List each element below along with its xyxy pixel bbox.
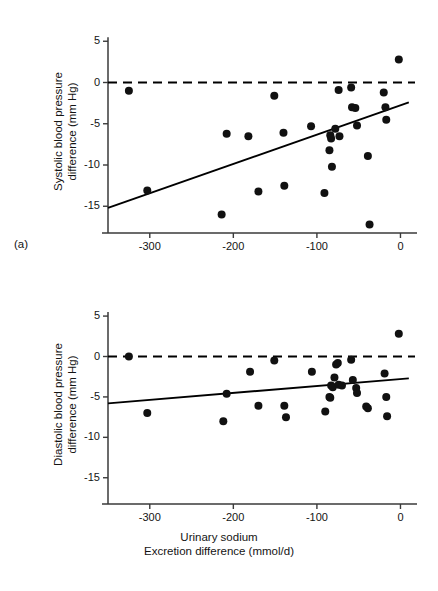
y-axis-tick-label: -5 [66,391,100,402]
data-point [380,88,388,96]
data-point [347,83,355,91]
data-point [331,125,339,133]
data-point [366,220,374,228]
data-point [347,356,355,364]
data-point [125,353,133,361]
y-axis-tick-label: -10 [66,431,100,442]
x-axis-label-line2: Excretion difference (mmol/d) [0,544,438,558]
data-point [335,86,343,94]
data-point [125,87,133,95]
data-point [320,189,328,197]
data-point [381,369,389,377]
data-point [143,409,151,417]
data-point [254,187,262,195]
data-point [143,187,151,195]
data-point [223,130,231,138]
y-axis-tick-label: -5 [66,118,100,129]
scatter-svg-b [108,308,413,502]
data-point [364,152,372,160]
data-point [307,122,315,130]
data-point [325,146,333,154]
x-axis-tick-label: 0 [377,241,423,252]
data-point [381,103,389,111]
x-axis-tick-label: -100 [294,241,340,252]
data-point [395,330,403,338]
data-point [382,393,390,401]
data-point [353,121,361,129]
data-point [279,129,287,137]
x-axis-tick-label: -200 [210,512,256,523]
data-point [334,359,342,367]
data-point [282,413,290,421]
x-axis-tick-label: -300 [127,512,173,523]
data-point [351,104,359,112]
data-point [382,116,390,124]
y-axis-tick-label: 5 [66,310,100,321]
data-point [327,135,335,143]
x-axis-tick-label: -300 [127,241,173,252]
data-point [335,132,343,140]
data-point [364,404,372,412]
scatter-svg-a [108,33,413,231]
y-axis-label-line1: Diastolic blood pressure [52,343,64,466]
data-point [349,376,357,384]
data-point [280,402,288,410]
data-point [270,92,278,100]
y-axis-tick-label: 0 [66,351,100,362]
regression-line [108,378,409,403]
data-point [326,394,334,402]
data-point [383,412,391,420]
plot-area-b [108,308,413,502]
data-point [338,382,346,390]
panel-tag-a: (a) [14,238,28,250]
panel-a-systolic: Systolic blood pressure difference (mm H… [0,0,438,295]
data-point [330,374,338,382]
y-axis-tick-label: 0 [66,77,100,88]
data-point [270,357,278,365]
data-point [328,163,336,171]
data-point [254,402,262,410]
y-axis-tick-label: -15 [66,200,100,211]
data-point [219,417,227,425]
y-axis-tick-label: 5 [66,35,100,46]
y-axis-tick-label: -10 [66,159,100,170]
x-axis-label-line1: Urinary sodium [0,530,438,544]
data-point [321,407,329,415]
x-axis-tick-label: -200 [210,241,256,252]
x-axis-tick-label: 0 [377,512,423,523]
data-point [246,368,254,376]
data-point [223,390,231,398]
x-axis-tick-label: -100 [294,512,340,523]
data-point [308,368,316,376]
figure-root: Systolic blood pressure difference (mm H… [0,0,438,591]
plot-area-a [108,33,413,231]
y-axis-tick-label: -15 [66,472,100,483]
data-point [353,389,361,397]
data-point [280,182,288,190]
x-axis-label: Urinary sodium Excretion difference (mmo… [0,530,438,558]
data-point [218,211,226,219]
data-point [395,55,403,63]
data-point [244,132,252,140]
y-axis-label-line1: Systolic blood pressure [52,72,64,191]
